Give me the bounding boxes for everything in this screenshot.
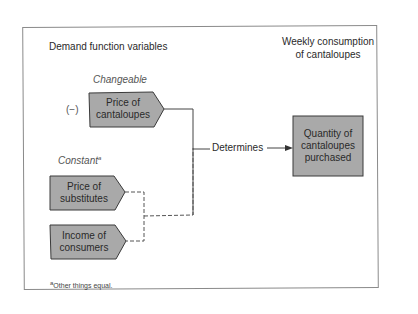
node-quantity-purchased: Quantity of cantaloupes purchased bbox=[293, 128, 363, 164]
constant-label-text: Constant bbox=[58, 155, 98, 166]
changeable-label: Changeable bbox=[93, 74, 147, 86]
node-line: consumers bbox=[50, 242, 118, 254]
constant-superscript: a bbox=[98, 155, 101, 161]
node-line: Price of bbox=[89, 97, 157, 109]
right-heading-line1: Weekly consumption bbox=[268, 36, 388, 48]
node-price-of-cantaloupes: Price of cantaloupes bbox=[89, 97, 157, 121]
node-line: Quantity of bbox=[293, 128, 363, 140]
node-line: purchased bbox=[293, 152, 363, 164]
node-line: Income of bbox=[50, 230, 118, 242]
left-heading: Demand function variables bbox=[49, 41, 167, 53]
determines-label: Determines bbox=[212, 142, 263, 154]
footnote: aOther things equal. bbox=[50, 280, 113, 292]
constant-label: Constanta bbox=[58, 155, 101, 167]
node-income-of-consumers: Income of consumers bbox=[50, 230, 118, 254]
footnote-text: Other things equal. bbox=[53, 282, 112, 289]
negative-sign-label: (−) bbox=[66, 104, 79, 116]
node-line: Price of bbox=[50, 181, 118, 193]
node-line: substitutes bbox=[50, 193, 118, 205]
right-heading-line2: of cantaloupes bbox=[268, 49, 388, 61]
node-line: cantaloupes bbox=[89, 109, 157, 121]
node-price-of-substitutes: Price of substitutes bbox=[50, 181, 118, 205]
node-line: cantaloupes bbox=[293, 140, 363, 152]
